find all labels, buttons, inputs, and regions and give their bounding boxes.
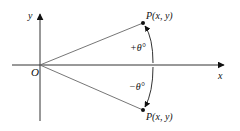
ray-negative	[40, 65, 143, 110]
origin-label: O	[31, 67, 39, 78]
point-p-bottom	[141, 108, 145, 112]
point-p-top-coords: (x, y)	[152, 10, 173, 21]
y-axis-label: y	[28, 11, 32, 21]
point-p-bottom-coords: (x, y)	[152, 111, 173, 122]
point-p-top	[141, 21, 145, 25]
negative-angle-label: −θ°	[129, 82, 145, 92]
arc-positive-angle	[145, 26, 153, 63]
positive-angle-label: +θ°	[130, 43, 146, 53]
arc-negative-angle	[145, 67, 153, 107]
point-p-top-label: P(x, y)	[146, 11, 173, 21]
x-axis-label: x	[218, 71, 222, 81]
point-p-bottom-label: P(x, y)	[146, 112, 173, 122]
ray-positive	[40, 23, 143, 65]
